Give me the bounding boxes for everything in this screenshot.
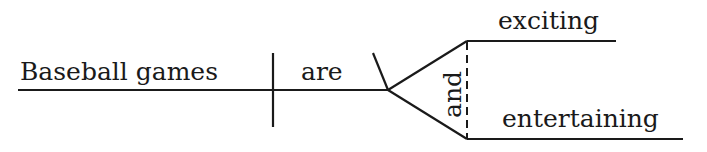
adjective-bottom-text: entertaining xyxy=(502,104,659,133)
subject-text: Baseball games xyxy=(20,57,218,86)
conjunction-text: and xyxy=(438,71,467,118)
complement-slant-line xyxy=(373,53,388,90)
verb-text: are xyxy=(301,57,343,86)
adjective-top-text: exciting xyxy=(498,6,599,35)
sentence-diagram: Baseball games are exciting entertaining… xyxy=(0,0,707,152)
